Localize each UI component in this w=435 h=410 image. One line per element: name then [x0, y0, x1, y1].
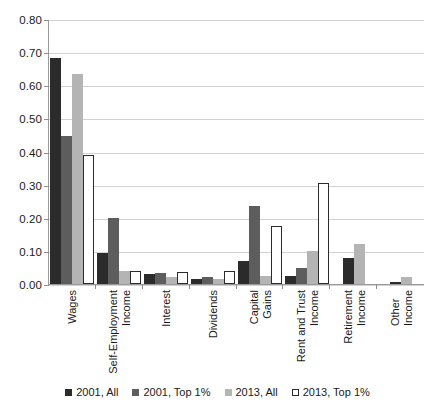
x-axis-category-labels: WagesSelf-EmploymentIncomeInterestDivide…	[48, 288, 424, 366]
bar-group	[330, 20, 377, 284]
x-axis-label: Dividends	[206, 290, 219, 338]
bar	[191, 279, 202, 284]
bar-group	[143, 20, 190, 284]
bar	[285, 276, 296, 284]
bar-group	[190, 20, 237, 284]
x-axis-label: Self-EmploymentIncome	[106, 290, 131, 374]
bar	[83, 155, 94, 284]
bar	[271, 226, 282, 284]
bar	[307, 251, 318, 284]
bar	[50, 58, 61, 284]
x-axis-label: Interest	[159, 290, 172, 327]
bar	[343, 258, 354, 284]
bar-group	[96, 20, 143, 284]
x-axis-label-cell: Interest	[142, 288, 189, 366]
legend-label: 2001, Top 1%	[143, 386, 210, 398]
y-axis-tick-label: 0.60	[19, 80, 42, 92]
bar	[354, 244, 365, 284]
gridline	[49, 285, 424, 286]
x-axis-label: RetirementIncome	[341, 290, 366, 344]
legend-item[interactable]: 2013, Top 1%	[292, 386, 370, 398]
y-axis-tick-label: 0.40	[19, 147, 42, 159]
y-axis-tick-label: 0.50	[19, 113, 42, 125]
y-axis-tick-label: 0.20	[19, 213, 42, 225]
legend-swatch-icon	[225, 389, 232, 396]
bar	[224, 271, 235, 284]
legend-label: 2001, All	[76, 386, 118, 398]
bar	[119, 271, 130, 284]
bar	[108, 218, 119, 284]
bar	[144, 274, 155, 284]
y-axis-tick	[44, 285, 49, 286]
x-axis-label-cell: Rent and TrustIncome	[283, 288, 330, 366]
y-axis-tick-label: 0.30	[19, 180, 42, 192]
bar	[177, 272, 188, 284]
bars-layer	[49, 20, 424, 284]
x-axis-label: Wages	[65, 290, 78, 324]
bar	[401, 277, 412, 284]
x-axis-label: OtherIncome	[388, 290, 413, 326]
legend-item[interactable]: 2001, Top 1%	[132, 386, 210, 398]
bar	[130, 271, 141, 284]
legend-swatch-icon	[292, 389, 299, 396]
legend-swatch-icon	[132, 389, 139, 396]
x-axis-label-cell: CapitalGains	[236, 288, 283, 366]
legend-item[interactable]: 2013, All	[225, 386, 278, 398]
x-axis-label-cell: Self-EmploymentIncome	[95, 288, 142, 366]
chart-legend: 2001, All2001, Top 1%2013, All2013, Top …	[0, 386, 435, 398]
bar	[296, 268, 307, 285]
x-axis-label-cell: RetirementIncome	[330, 288, 377, 366]
x-axis-label-cell: Wages	[48, 288, 95, 366]
bar	[202, 277, 213, 284]
bar	[97, 253, 108, 284]
x-axis-label: Rent and TrustIncome	[294, 290, 319, 362]
bar	[318, 183, 329, 284]
bar	[213, 279, 224, 284]
bar-chart: 0.800.700.600.500.400.300.200.100.00 Wag…	[0, 0, 435, 410]
y-axis-tick-label: 0.70	[19, 47, 42, 59]
legend-label: 2013, All	[236, 386, 278, 398]
legend-label: 2013, Top 1%	[303, 386, 370, 398]
bar	[260, 276, 271, 284]
bar	[238, 261, 249, 284]
y-axis-tick-label: 0.00	[19, 279, 42, 291]
plot-area: 0.800.700.600.500.400.300.200.100.00	[48, 20, 424, 285]
bar	[72, 74, 83, 284]
bar	[61, 136, 72, 285]
legend-swatch-icon	[65, 389, 72, 396]
x-axis-label-cell: Dividends	[189, 288, 236, 366]
x-axis-label: CapitalGains	[247, 290, 272, 324]
bar	[390, 282, 401, 284]
bar-group	[283, 20, 330, 284]
bar-group	[377, 20, 424, 284]
y-axis-tick-label: 0.10	[19, 246, 42, 258]
x-axis-label-cell: OtherIncome	[377, 288, 424, 366]
bar	[249, 206, 260, 284]
legend-item[interactable]: 2001, All	[65, 386, 118, 398]
bar	[166, 277, 177, 284]
y-axis-tick-label: 0.80	[19, 14, 42, 26]
bar-group	[49, 20, 96, 284]
bar	[155, 273, 166, 284]
bar-group	[237, 20, 284, 284]
